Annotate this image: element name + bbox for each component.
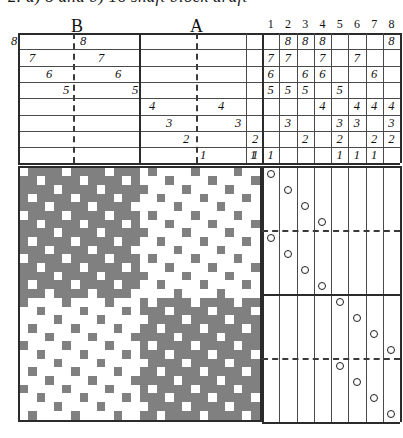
figure-caption-sliver: 2. a) 8 and b) 16 shaft block draft <box>0 0 403 13</box>
treadling-mark-p9-t5[interactable] <box>353 314 361 322</box>
tieup-cell-r2-c3[interactable]: 6 <box>315 68 329 80</box>
treadling-mark-p8-t4[interactable] <box>336 298 344 306</box>
threading-b-shaft-7[interactable]: 7 <box>26 52 38 64</box>
tieup-cell-r0-c1[interactable]: 8 <box>281 35 295 47</box>
threading-rowline-2 <box>18 66 400 67</box>
shaft-number-3: 3 <box>298 17 312 32</box>
block-a-center-dash <box>196 33 198 163</box>
tieup-colline-5 <box>348 33 349 163</box>
threading-rowline-4 <box>18 98 400 99</box>
tieup-cell-r7-c4[interactable]: 1 <box>333 149 347 161</box>
treadling-mark-p12-t4[interactable] <box>336 362 344 370</box>
threading-a-shaft-2[interactable]: 2 <box>180 133 192 145</box>
tieup-cell-r1-c0[interactable]: 7 <box>264 52 278 64</box>
block-b-center-dash <box>73 33 75 163</box>
tieup-cell-r3-c0[interactable]: 5 <box>264 84 278 96</box>
treadling-mark-p15-t7[interactable] <box>387 410 395 418</box>
treadling-bottom-border <box>262 422 400 424</box>
tieup-colline-8 <box>400 33 402 163</box>
treadling-mark-p5-t1[interactable] <box>284 250 292 258</box>
treadling-mark-p11-t7[interactable] <box>387 346 395 354</box>
threading-b-shaft-5[interactable]: 5 <box>129 84 141 96</box>
treadling-colline-8 <box>400 166 402 422</box>
tieup-cell-r4-c5[interactable]: 4 <box>350 100 364 112</box>
treadling-guide-pick-12 <box>262 358 400 360</box>
threading-a-shaft-3[interactable]: 3 <box>232 117 244 129</box>
threading-a-shaft-3[interactable]: 3 <box>163 117 175 129</box>
treadling-guide-pick-4 <box>262 230 400 232</box>
threading-b-shaft-8[interactable]: 8 <box>8 35 20 47</box>
treadling-mark-p0-t0[interactable] <box>267 170 275 178</box>
threading-a-shaft-4[interactable]: 4 <box>215 100 227 112</box>
tieup-cell-r0-c3[interactable]: 8 <box>315 35 329 47</box>
threading-b-shaft-7[interactable]: 7 <box>95 52 107 64</box>
tieup-cell-r2-c0[interactable]: 6 <box>264 68 278 80</box>
treadling-top-border <box>262 166 400 168</box>
tieup-cell-r6-c2[interactable]: 2 <box>298 133 312 145</box>
tieup-cell-r0-c2[interactable]: 8 <box>298 35 312 47</box>
treadling-mark-p7-t3[interactable] <box>318 282 326 290</box>
treadling-mark-p6-t2[interactable] <box>301 266 309 274</box>
tieup-cell-r2-c6[interactable]: 6 <box>367 68 381 80</box>
tieup-cell-r7-c6[interactable]: 1 <box>367 149 381 161</box>
figure-caption-text: 2. a) 8 and b) 16 shaft block draft <box>8 0 248 7</box>
threading-b-shaft-6[interactable]: 6 <box>112 68 124 80</box>
threading-a-shaft-2[interactable]: 2 <box>249 133 261 145</box>
threading-left-border <box>18 33 20 163</box>
tieup-cell-r6-c4[interactable]: 2 <box>333 133 347 145</box>
treadling-mid-border <box>262 294 400 296</box>
treadling-mark-p13-t5[interactable] <box>353 378 361 386</box>
tieup-cell-r0-c7[interactable]: 8 <box>384 35 398 47</box>
treadling-mark-p14-t6[interactable] <box>370 394 378 402</box>
tieup-cell-r5-c7[interactable]: 3 <box>384 117 398 129</box>
threading-a-shaft-1-repeat[interactable]: 1 <box>246 149 260 161</box>
treadling-mark-p3-t3[interactable] <box>318 218 326 226</box>
shaft-number-6: 6 <box>350 17 364 32</box>
threading-rowline-1 <box>18 49 400 50</box>
threading-block-divider <box>139 33 141 163</box>
threading-b-shaft-6[interactable]: 6 <box>43 68 55 80</box>
threading-a-shaft-1[interactable]: 1 <box>197 149 209 161</box>
shaft-number-4: 4 <box>315 17 329 32</box>
threading-a-shaft-4[interactable]: 4 <box>146 100 158 112</box>
shaft-number-7: 7 <box>367 17 381 32</box>
tieup-cell-r5-c1[interactable]: 3 <box>281 117 295 129</box>
threading-repeat-mark <box>246 33 247 163</box>
tieup-cell-r3-c4[interactable]: 5 <box>333 84 347 96</box>
threading-b-shaft-8[interactable]: 8 <box>77 35 89 47</box>
threading-b-shaft-5[interactable]: 5 <box>60 84 72 96</box>
tieup-cell-r1-c1[interactable]: 7 <box>281 52 295 64</box>
tieup-colline-1 <box>279 33 280 163</box>
tieup-cell-r4-c3[interactable]: 4 <box>315 100 329 112</box>
tieup-cell-r1-c3[interactable]: 7 <box>315 52 329 64</box>
tieup-cell-r4-c6[interactable]: 4 <box>367 100 381 112</box>
drawdown-pattern[interactable] <box>18 166 262 422</box>
tieup-cell-r7-c0[interactable]: 1 <box>264 149 278 161</box>
tieup-cell-r5-c5[interactable]: 3 <box>350 117 364 129</box>
tieup-cell-r6-c6[interactable]: 2 <box>367 133 381 145</box>
tieup-cell-r4-c7[interactable]: 4 <box>384 100 398 112</box>
treadling-mark-p1-t1[interactable] <box>284 186 292 194</box>
shaft-number-8: 8 <box>384 17 398 32</box>
treadling-mark-p2-t2[interactable] <box>301 202 309 210</box>
tieup-cell-r2-c2[interactable]: 6 <box>298 68 312 80</box>
shaft-number-1: 1 <box>264 17 278 32</box>
tieup-cell-r6-c7[interactable]: 2 <box>384 133 398 145</box>
threading-rowline-8 <box>18 163 400 165</box>
tieup-cell-r3-c2[interactable]: 5 <box>298 84 312 96</box>
threading-rowline-0 <box>18 33 400 35</box>
drawdown-canvas <box>20 168 260 420</box>
tieup-cell-r3-c1[interactable]: 5 <box>281 84 295 96</box>
tieup-cell-r7-c5[interactable]: 1 <box>350 149 364 161</box>
treadling-mark-p10-t6[interactable] <box>370 330 378 338</box>
treadling-mark-p4-t0[interactable] <box>267 234 275 242</box>
shaft-number-5: 5 <box>333 17 347 32</box>
shaft-number-2: 2 <box>281 17 295 32</box>
tieup-cell-r1-c5[interactable]: 7 <box>350 52 364 64</box>
tieup-cell-r5-c4[interactable]: 3 <box>333 117 347 129</box>
